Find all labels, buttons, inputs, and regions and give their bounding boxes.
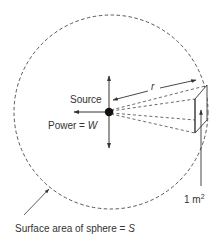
radius-arrow-right bbox=[160, 80, 196, 88]
unit-area-label: 1 m2 bbox=[184, 193, 205, 205]
point-source-dot bbox=[105, 108, 113, 116]
sphere-area-label: Surface area of sphere = S bbox=[15, 223, 135, 234]
radius-label: r bbox=[151, 81, 155, 92]
radius-arrow-left bbox=[113, 91, 148, 100]
sphere-label-leader bbox=[24, 189, 49, 215]
source-label: Source bbox=[70, 94, 102, 105]
inverse-square-diagram: Source Power = W r 1 m2 Surface area of … bbox=[0, 0, 223, 247]
radiation-rays bbox=[111, 86, 205, 133]
source-arrows bbox=[74, 76, 109, 148]
power-label: Power = W bbox=[48, 120, 99, 131]
